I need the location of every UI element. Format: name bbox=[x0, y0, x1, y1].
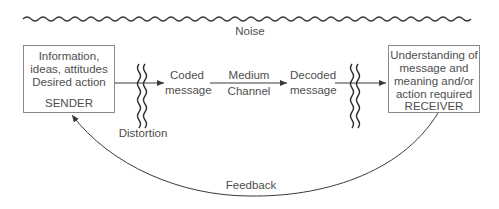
distortion-wave-icon bbox=[351, 64, 354, 128]
feedback-label: Feedback bbox=[224, 179, 278, 192]
receiver-role-label: RECEIVER bbox=[389, 100, 479, 113]
coded-message-line-2: message bbox=[165, 84, 209, 97]
distortion-wave-icon bbox=[357, 64, 360, 128]
decoded-message-line-2: message bbox=[290, 84, 336, 97]
distortion-wave-icon bbox=[144, 64, 147, 128]
decoded-message-line-1: Decoded bbox=[290, 69, 336, 82]
receiver-box: Understanding of message and meaning and… bbox=[388, 45, 480, 113]
receiver-line-1: Understanding of bbox=[389, 49, 479, 62]
medium-label: Medium bbox=[222, 69, 276, 82]
distortion-label: Distortion bbox=[116, 127, 170, 140]
coded-message-line-1: Coded bbox=[165, 69, 209, 82]
sender-role-label: SENDER bbox=[24, 97, 114, 110]
sender-line-2: ideas, attitudes bbox=[24, 63, 114, 76]
sender-line-3: Desired action bbox=[24, 76, 114, 89]
channel-label: Channel bbox=[222, 85, 276, 98]
receiver-line-3: meaning and/or bbox=[389, 75, 479, 88]
sender-box: Information, ideas, attitudes Desired ac… bbox=[23, 45, 115, 113]
noise-wave-icon bbox=[23, 17, 471, 21]
noise-label: Noise bbox=[230, 25, 270, 38]
receiver-line-2: message and bbox=[389, 62, 479, 75]
sender-line-1: Information, bbox=[24, 50, 114, 63]
distortion-wave-icon bbox=[138, 64, 141, 128]
